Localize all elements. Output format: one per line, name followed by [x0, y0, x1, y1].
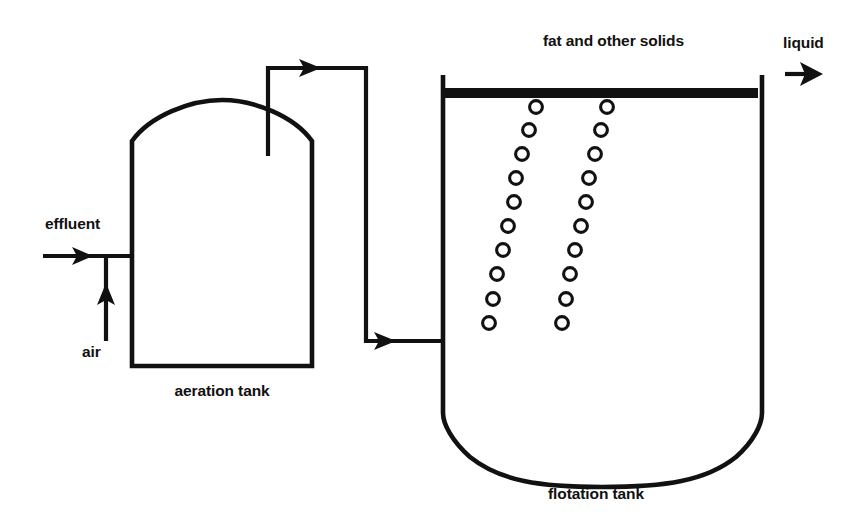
bubble — [564, 268, 577, 281]
aeration-tank-label: aeration tank — [174, 382, 270, 399]
effluent-label: effluent — [45, 215, 100, 232]
bubble — [508, 196, 521, 209]
aeration-tank-vessel — [132, 100, 312, 366]
bubble — [589, 148, 602, 161]
bubble — [483, 317, 496, 330]
bubble — [560, 293, 573, 306]
fat-and-solids-label: fat and other solids — [543, 32, 684, 49]
bubble — [595, 124, 608, 137]
transfer-pipe — [268, 68, 443, 341]
liquid-label: liquid — [783, 34, 824, 51]
bubble-column-right — [556, 101, 614, 330]
liquid-outlet-stream — [785, 62, 823, 86]
air-label: air — [82, 343, 101, 360]
bubble — [580, 196, 593, 209]
bubble — [497, 244, 510, 257]
bubble — [491, 268, 504, 281]
bubble-column-left — [483, 101, 543, 330]
bubble — [575, 220, 588, 233]
aeration-tank-outline — [132, 100, 312, 366]
effluent-inlet-stream — [43, 247, 132, 265]
bubble — [516, 148, 529, 161]
bubble — [523, 124, 536, 137]
air-inlet-stream — [97, 258, 115, 341]
bubble — [569, 244, 582, 257]
bubble — [510, 172, 523, 185]
transfer-line-stream — [268, 59, 443, 350]
diagram-canvas: effluent air aeration tank fat and other… — [0, 0, 865, 524]
flotation-tank-label: flotation tank — [548, 485, 644, 502]
fat-solids-layer — [444, 88, 758, 98]
bubble — [487, 293, 500, 306]
bubble — [502, 220, 515, 233]
bubble — [601, 101, 614, 114]
process-diagram: effluent air aeration tank fat and other… — [0, 0, 865, 524]
bubble — [530, 101, 543, 114]
bubble — [556, 317, 569, 330]
bubble — [583, 172, 596, 185]
